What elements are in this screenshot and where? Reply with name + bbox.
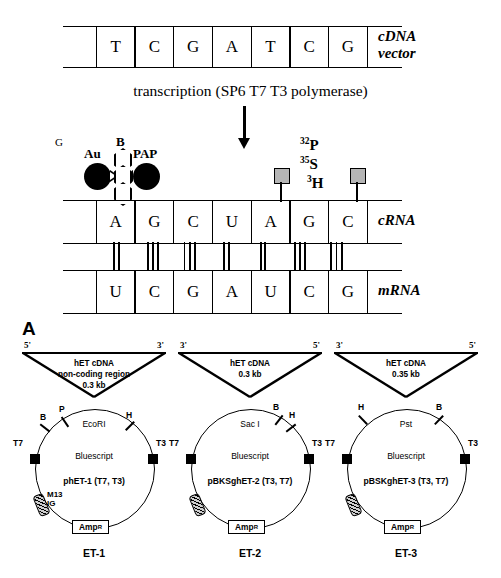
amp-resistance-marker: AmpR [228,520,265,534]
plasmid-caption: ET-1 [14,547,174,559]
m13-label-line1: M13 [47,490,63,499]
plasmid-map-et-1: 5'3'hET cDNAnon-coding region0.3 kbEcoRI… [14,338,174,578]
restriction-site-label: B [436,402,442,412]
mrna-base: G [173,271,213,313]
promoter-label-left: T7 [169,438,179,448]
restriction-enzyme-label: Pst [326,419,486,429]
restriction-site-label: B [40,412,46,422]
cdna-base: C [134,27,174,67]
pap-label: PAP [133,146,157,162]
insert-prime-left: 5' [24,340,31,350]
crna-base: C [328,201,368,243]
amp-resistance-marker: AmpR [384,520,421,534]
mrna-base: C [134,271,174,313]
cdna-vector-label: cDNA vector [378,28,416,62]
hydrogen-bond [304,242,306,270]
amp-label-text: Amp [79,522,98,532]
glycoprotein-label: G [55,136,63,148]
plasmid-name-label: pBSKghET-3 (T3, T7) [326,476,486,486]
amp-label-superscript: R [98,524,102,530]
hydrogen-bond [299,242,301,270]
plasmid-caption: ET-3 [326,547,486,559]
amp-label-text: Amp [235,522,254,532]
pap-particle-icon [133,163,160,190]
mrna-label: mRNA [378,282,421,299]
promoter-label-right: T3 [468,438,478,448]
restriction-site-label: P [59,404,65,414]
cdna-pad-left [63,27,97,67]
isotope-h3-label: 3H [307,174,323,192]
hydrogen-bond-band [63,242,393,270]
hydrogen-bond [113,242,115,270]
vector-backbone-label: Bluescript [170,451,330,461]
isotope-s35-element: S [310,156,318,172]
insert-text-line: hET cDNA [170,358,330,369]
insert-prime-right: 5' [469,340,476,350]
hydrogen-bond [260,242,262,270]
isotope-s35-mass: 35 [300,155,310,165]
hydrogen-bond [157,242,159,270]
isotope-p32-element: P [310,137,319,153]
crna-pad-left [63,201,97,243]
hydrogen-bond [118,242,120,270]
insert-text-line: hET cDNA [326,358,486,369]
crna-base: A [251,201,291,243]
gold-particle-icon [84,163,111,190]
plasmid-map-et-2: 3'5'hET cDNA0.3 kbSac IT7T3BHBluescriptp… [170,338,330,578]
crna-base: G [134,201,174,243]
restriction-site-label: H [358,402,364,412]
isotope-p32-mass: 32 [300,136,310,146]
crna-rail: A G C U A G C [63,200,402,244]
insert-text-line: 0.3 kb [170,369,330,380]
promoter-label-left: T7 [13,438,23,448]
vector-backbone-label: Bluescript [326,451,486,461]
plasmid-map-et-3: 3'5'hET cDNA0.35 kbPstT7T3HBBluescriptpB… [326,338,486,578]
cdna-label-line2: vector [378,45,416,62]
hydrogen-bond [228,242,230,270]
insert-text-line: non-coding region [14,369,174,380]
hydrogen-bond [152,242,154,270]
panel-letter-a: A [22,318,36,340]
insert-text-line: hET cDNA [14,358,174,369]
cdna-base: T [251,27,291,67]
hydrogen-bond [264,242,266,270]
plasmid-name-label: phET-1 (T7, T3) [14,476,174,486]
cdna-base: T [96,27,136,67]
insert-prime-left: 3' [336,340,343,350]
hydrogen-bond [189,242,191,270]
restriction-site-label: H [126,410,132,420]
mrna-strand: U C G A U C G [63,270,402,314]
amp-resistance-marker: AmpR [72,520,109,534]
isotope-h3-element: H [312,175,324,191]
cdna-base: G [328,27,368,67]
hydrogen-bond [194,242,196,270]
gold-label: Au [84,146,101,162]
hydrogen-bond [184,242,186,270]
insert-prime-right: 5' [313,340,320,350]
hydrogen-bond [341,242,343,270]
insert-prime-right: 3' [157,340,164,350]
mrna-base: G [328,271,368,313]
mrna-pad-left [63,271,97,313]
biotin-label: B [116,134,125,150]
transcription-arrow-shaft [243,106,246,140]
restriction-enzyme-label: EcoRI [14,419,174,429]
promoter-label-right: T3 [156,438,166,448]
hydrogen-bond [147,242,149,270]
mrna-base: U [251,271,291,313]
m13-label-line2: IG [47,499,63,508]
mrna-base: U [96,271,136,313]
plasmid-caption: ET-2 [170,547,330,559]
insert-text-line: 0.35 kb [326,369,486,380]
amp-label-superscript: R [410,524,414,530]
crna-base: U [212,201,252,243]
crna-base: C [173,201,213,243]
isotope-tag-icon [274,168,290,184]
mrna-base: A [212,271,252,313]
crna-label: cRNA [378,212,416,229]
crna-strand: A G C U A G C [63,200,402,244]
isotope-tag-icon [350,168,366,184]
cdna-strand: T C G A T C G [63,26,402,68]
figure-root: T C G A T C G cDNA vector transcription … [0,0,501,578]
mrna-rail: U C G A U C G [63,270,402,314]
